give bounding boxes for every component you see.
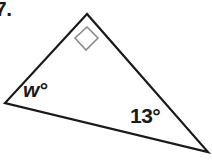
angle-label-w: w° xyxy=(23,79,47,100)
geometry-figure: 7. w° 13° xyxy=(0,0,212,163)
item-number: 7. xyxy=(0,0,12,19)
angle-label-13: 13° xyxy=(130,105,160,126)
